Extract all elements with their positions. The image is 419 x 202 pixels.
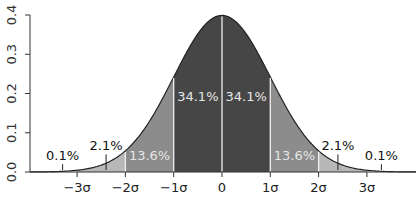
y-tick-label: 0.1 [4,122,19,143]
percent-label: 0.1% [365,148,398,163]
normal-distribution-chart: 0.00.10.20.30.4−3σ−2σ−1σ01σ2σ3σ 0.1%2.1%… [0,0,419,202]
percent-label: 13.6% [129,148,170,163]
x-tick-label: 1σ [262,180,279,195]
y-tick-label: 0.4 [4,5,19,26]
percent-label: 34.1% [177,89,218,104]
x-tick-label: 3σ [359,180,376,195]
percent-label: 2.1% [90,138,123,153]
x-tick-label: 0 [218,180,226,195]
y-tick-label: 0.3 [4,44,19,65]
x-tick-label: −1σ [160,180,187,195]
percent-label: 13.6% [274,148,315,163]
percent-label: 34.1% [225,89,266,104]
x-tick-label: 2σ [310,180,327,195]
percent-label: 2.1% [321,138,354,153]
y-tick-label: 0.2 [4,83,19,104]
x-tick-label: −2σ [112,180,139,195]
y-tick-label: 0.0 [4,162,19,183]
percent-label: 0.1% [46,148,79,163]
x-tick-label: −3σ [63,180,90,195]
